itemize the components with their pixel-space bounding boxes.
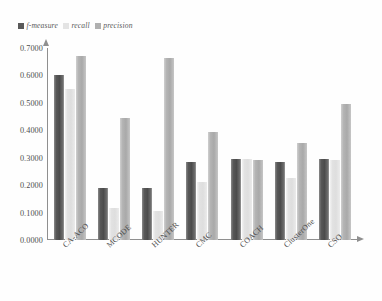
bar-recall-COACH: [242, 159, 252, 240]
legend-label-recall: recall: [71, 21, 89, 30]
y-axis-tick-label: 0.7000: [3, 44, 43, 53]
bar-recall-CA-ACO: [65, 89, 75, 240]
legend-label-precision: precision: [103, 21, 132, 30]
bar-precision-HUNTER: [164, 58, 174, 240]
y-axis-tick-label: 0.1000: [3, 208, 43, 217]
x-axis-arrow-icon: [357, 236, 364, 242]
bar-precision-CSO: [341, 104, 351, 240]
bar-group: [269, 48, 313, 240]
y-axis-tick-label: 0.2000: [3, 181, 43, 190]
bar-precision-CMC: [208, 132, 218, 240]
y-axis-tick-label: 0.6000: [3, 71, 43, 80]
bar-group: [313, 48, 357, 240]
legend-swatch-f-measure: [18, 23, 24, 29]
bar-f-measure-CA-ACO: [54, 75, 64, 240]
y-axis-tick-labels: 0.70000.60000.50000.40000.30000.20000.10…: [0, 48, 43, 240]
legend-item-precision: precision: [95, 21, 133, 30]
bar-precision-MCODE: [120, 118, 130, 240]
bar-precision-CA-ACO: [76, 56, 86, 240]
legend-label-f-measure: f-measure: [27, 21, 58, 30]
y-axis-tick-label: 0.3000: [3, 153, 43, 162]
bar-f-measure-ClusterOne: [275, 162, 285, 240]
x-axis-tick-labels: CA-ACOMCODEHUNTERCMCCOACHClusterOneCSO: [48, 241, 357, 296]
legend-swatch-recall: [63, 23, 69, 29]
bar-f-measure-MCODE: [98, 188, 108, 240]
y-axis-arrow-icon: [43, 39, 49, 46]
bar-f-measure-COACH: [231, 159, 241, 240]
y-axis-tick-label: 0.4000: [3, 126, 43, 135]
bar-f-measure-CMC: [186, 162, 196, 240]
bar-recall-CSO: [330, 160, 340, 240]
bar-f-measure-HUNTER: [142, 188, 152, 240]
bar-f-measure-CSO: [319, 159, 329, 240]
bar-group: [180, 48, 224, 240]
chart-legend: f-measure recall precision: [18, 21, 133, 30]
legend-item-recall: recall: [63, 21, 90, 30]
bar-group: [48, 48, 92, 240]
y-axis-tick-label: 0.0000: [3, 236, 43, 245]
bar-group: [225, 48, 269, 240]
legend-swatch-precision: [95, 23, 101, 29]
bar-chart-figure: f-measure recall precision 0.70000.60000…: [0, 0, 382, 301]
bar-group: [92, 48, 136, 240]
bar-group: [136, 48, 180, 240]
legend-item-f-measure: f-measure: [18, 21, 58, 30]
bar-groups: [48, 48, 357, 240]
y-axis-tick-label: 0.5000: [3, 98, 43, 107]
